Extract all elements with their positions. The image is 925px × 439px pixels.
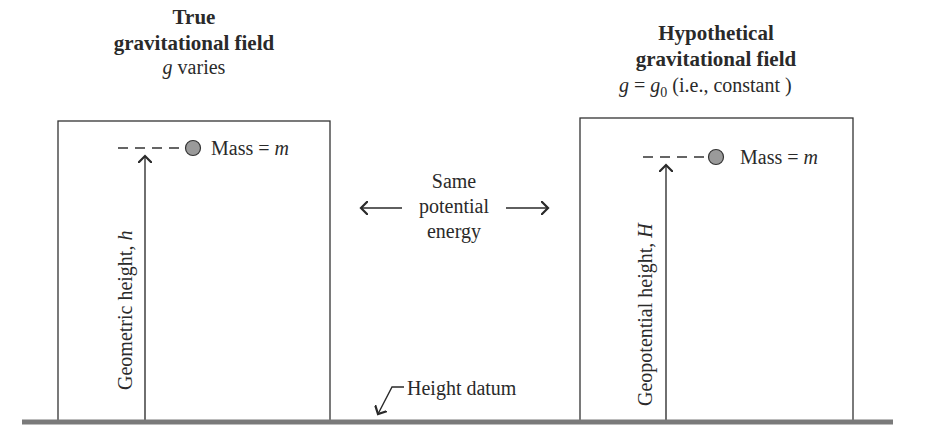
left-mass-label: Mass = m [211, 137, 289, 159]
height-datum-label: Height datum [407, 377, 517, 400]
middle-annotation: Same potential energy [361, 170, 548, 243]
right-title-line2: gravitational field [636, 47, 797, 71]
right-mass-label: Mass = m [740, 146, 818, 168]
left-column-box [58, 121, 330, 421]
datum-pointer-arrow-icon [378, 387, 404, 414]
right-panel: Hypothetical gravitational field g = g0 … [580, 21, 853, 421]
middle-line2: potential [419, 195, 489, 218]
left-title-line1: True [173, 5, 216, 29]
middle-line3: energy [427, 220, 481, 243]
middle-line1: Same [432, 170, 477, 192]
left-title-line2: gravitational field [114, 31, 275, 55]
geopotential-diagram: True gravitational field g varies Mass =… [0, 0, 925, 439]
left-subtitle: g varies [163, 56, 226, 79]
left-mass-icon [186, 141, 201, 156]
right-subtitle: g = g0 (i.e., constant ) [619, 74, 792, 100]
right-title-line1: Hypothetical [658, 21, 774, 45]
left-axis-label: Geometric height, h [114, 231, 137, 390]
left-panel: True gravitational field g varies Mass =… [58, 5, 330, 421]
right-mass-icon [709, 150, 724, 165]
right-axis-label: Geopotential height, H [634, 222, 657, 406]
